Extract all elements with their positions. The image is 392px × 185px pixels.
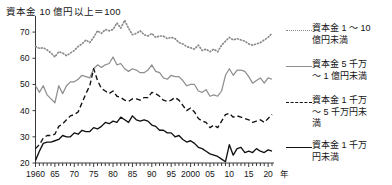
legend-label-1: 資本金 5 千万 〜 1 億円未満 [312, 59, 390, 82]
legend-label-1-line2: 〜 1 億円未満 [312, 71, 367, 81]
dashed-line-key [286, 98, 312, 108]
y-tick-label: 60 [20, 53, 30, 63]
solid-gray-line-key [286, 62, 312, 72]
y-tick-label: 20 [20, 158, 30, 168]
y-tick-label: 40 [20, 106, 30, 116]
x-tick-label: 1960 [26, 169, 45, 179]
x-axis-unit: 年 [280, 169, 289, 179]
x-tick-label: 10 [225, 169, 235, 179]
legend-item-3: 資本金 1 千万 円未満 [286, 140, 390, 163]
x-tick-label: 15 [244, 169, 254, 179]
legend-label-3: 資本金 1 千万 円未満 [312, 140, 390, 163]
legend-item-1: 資本金 5 千万 〜 1 億円未満 [286, 59, 390, 82]
legend-label-0-line1: 資本金 1 〜 10 [312, 23, 371, 33]
x-tick-label: 2000 [181, 169, 200, 179]
legend-label-2-line3: 満 [312, 118, 321, 128]
chart-container: 資本金 10 億円以上＝100 203040506070196065707580… [0, 0, 392, 185]
legend-label-3-line2: 円未満 [312, 152, 339, 162]
series-line-0 [36, 20, 273, 57]
x-tick-label: 85 [128, 169, 138, 179]
legend-label-2-line2: 〜 5 千万円未 [312, 107, 367, 117]
x-tick-label: 65 [50, 169, 60, 179]
legend-label-0: 資本金 1 〜 10 億円未満 [312, 23, 390, 46]
legend-label-3-line1: 資本金 1 千万 [312, 140, 367, 150]
series-line-1 [36, 57, 273, 103]
x-tick-label: 20 [263, 169, 273, 179]
series-line-3 [36, 116, 273, 162]
dotted-line-key [286, 26, 312, 36]
legend-label-0-line2: 億円未満 [312, 35, 348, 45]
legend-item-2: 資本金 1 千万 〜 5 千万円未 満 [286, 95, 390, 130]
x-tick-label: 95 [166, 169, 176, 179]
legend-label-2-line1: 資本金 1 千万 [312, 95, 367, 105]
x-tick-label: 90 [147, 169, 157, 179]
y-tick-label: 30 [20, 132, 30, 142]
legend-label-1-line1: 資本金 5 千万 [312, 59, 367, 69]
x-tick-label: 80 [108, 169, 118, 179]
y-tick-label: 70 [20, 27, 30, 37]
x-tick-label: 05 [205, 169, 215, 179]
x-tick-label: 70 [70, 169, 80, 179]
solid-black-line-key [286, 143, 312, 153]
x-tick-label: 75 [89, 169, 99, 179]
legend-label-2: 資本金 1 千万 〜 5 千万円未 満 [312, 95, 390, 130]
legend-item-0: 資本金 1 〜 10 億円未満 [286, 23, 390, 46]
y-tick-label: 50 [20, 79, 30, 89]
